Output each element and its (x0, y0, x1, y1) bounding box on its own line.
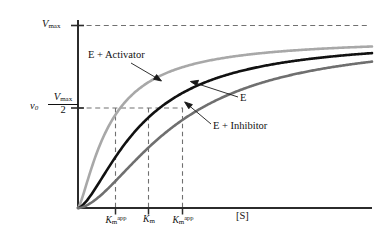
x-axis-label: [S] (236, 211, 249, 222)
halfmax-numerator: Vmax (48, 92, 78, 103)
annotation-e-plus-activator: E + Activator (88, 50, 145, 61)
michaelis-menten-plot (0, 0, 391, 245)
y-axis-vmax-label: Vmax (42, 19, 60, 30)
y-axis-rate-label: v0 (30, 101, 38, 112)
x-tick-label-km: Km (143, 214, 155, 225)
x-tick-label-km-app-activator: Kmapp (105, 214, 126, 226)
y-axis-halfmax-label: Vmax 2 (48, 92, 78, 115)
halfmax-denominator: 2 (48, 105, 78, 116)
curve-e-plus-inhibitor (78, 62, 372, 208)
annotation-arrows (131, 63, 238, 124)
annotation-e: E (240, 93, 246, 104)
x-tick-label-km-app-inhibitor: Kmapp (172, 214, 193, 226)
annotation-e-plus-inhibitor: E + Inhibitor (213, 121, 267, 132)
arrow-line-enzyme (192, 82, 238, 97)
chart-figure: Vmax v0 Vmax 2 E + Activator E E + Inhib… (0, 0, 391, 245)
